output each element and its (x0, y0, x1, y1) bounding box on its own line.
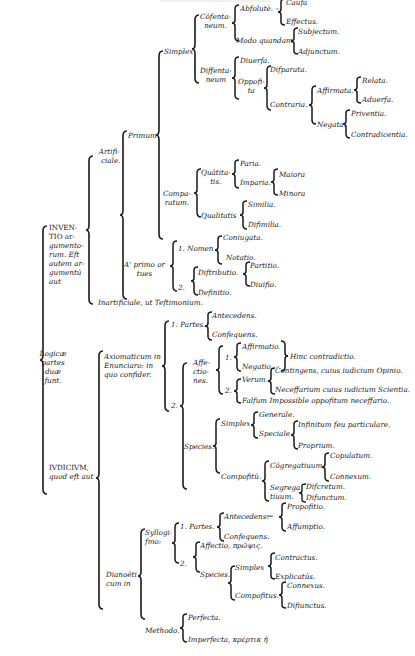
node-explicatus: Explicatūs. (275, 572, 315, 581)
brace-aprimo (170, 240, 178, 292)
node-axiomaticum: Axiomaticum inEnunciaro: inquo confider. (104, 352, 161, 379)
node-affectiones: Affe-ctio-nes. (193, 358, 210, 385)
brace-inventio (86, 155, 94, 305)
node-disiunctus: Difiunctus. (287, 601, 327, 610)
brace-quantitatis (232, 159, 240, 189)
node-contraria: Contraria. (270, 100, 307, 109)
node-disparata: Difparata. (270, 65, 307, 74)
node-proprium: Proprium. (298, 441, 335, 450)
brace-compositus (279, 581, 287, 609)
node-paria: Paria. (240, 159, 261, 168)
brace-species1 (213, 418, 221, 474)
node-two-c: 2. (225, 386, 232, 395)
node-adjunctum: Adjunctum. (298, 47, 340, 56)
node-propositio: Propofitio. (287, 502, 325, 511)
node-connexus: Connexus. (287, 581, 325, 590)
node-subjectum: Subjectum. (298, 27, 339, 36)
node-dissentaneum: Diffenta-neum (200, 66, 232, 84)
node-partes2: 1. Partes. (180, 522, 215, 531)
brace-axiomaticum (162, 320, 170, 412)
node-disiunctum: Difunctum. (306, 493, 347, 502)
node-dissimilia: Difimilia. (248, 220, 281, 229)
node-necessarium: Neceffarium cuius iudicium Scientia. (275, 385, 410, 394)
node-compositus: Compofitus. (235, 591, 279, 600)
node-connexum: Connexum. (330, 472, 371, 481)
node-comparatum: Compa-ratum. (163, 189, 191, 207)
node-antecedens1: Antecedens. (212, 311, 257, 320)
brace-simplex2 (251, 411, 259, 439)
brace-iudicium (96, 350, 104, 610)
node-inartificiale: Inartificiale, ut Teftimonium. (98, 298, 203, 307)
node-simplex2: Simplex (221, 419, 250, 428)
brace-qualitatis (240, 200, 248, 230)
node-discretum: Difcretum. (306, 482, 345, 491)
node-affirmatio: Affirmatio. (242, 342, 281, 351)
brace-nomen (215, 235, 223, 265)
node-species2: Species. (200, 570, 230, 579)
node-dianoeticum: Dianoēticum in (106, 570, 137, 588)
brace-negata (343, 109, 351, 139)
node-syllogismo: Syllogi-fmo: (145, 528, 172, 546)
brace-affectiones (216, 345, 224, 395)
node-opposita: Oppofi-ta (238, 77, 265, 95)
node-relata: Relata. (362, 76, 388, 85)
node-consequens1: Confequens. (212, 330, 257, 339)
brace-antecedens2 (279, 502, 287, 532)
node-minora: Minora (279, 189, 305, 198)
node-simplex3: Simplex (235, 563, 264, 572)
node-imperfecta: Imperfecta, κρέρτικ ῆ (188, 635, 268, 644)
brace-imparia (271, 168, 279, 196)
node-segregatiuum: Segregatiuum. (270, 483, 300, 501)
brace-simplex (192, 14, 200, 84)
node-falsum: Falfum Impossible oppofitum neceffario. (242, 396, 389, 405)
node-negata: Negata. (317, 120, 346, 129)
node-aprimo: A' primo ortues (124, 260, 165, 278)
node-aduersa: Aduerfa. (362, 95, 393, 104)
node-quantitatis: Quātita-tis. (201, 168, 231, 186)
brace-affirmata (354, 76, 362, 104)
node-partes1: 1. Partes. (171, 320, 206, 329)
node-infinitum: Infinitum feu particulare. (298, 420, 390, 429)
node-contingens: Contingens, cuius iudicium Opinio. (275, 366, 403, 375)
node-cosentaneum: Cōfenta-neum. (200, 12, 231, 30)
node-qualitatis: Qualitatis (201, 211, 236, 220)
node-similia: Similia. (248, 200, 276, 209)
brace-absolute (278, 0, 286, 26)
node-contractus: Contractus. (275, 553, 318, 562)
node-modo-quandam: Modo quandam. (236, 36, 295, 45)
node-effectus: Effectus. (286, 17, 318, 26)
node-diuersa: Diuerfa. (240, 56, 270, 65)
node-antecedens2: Antecedens. (224, 512, 269, 521)
node-two-b: 2. (171, 401, 178, 410)
brace-one-c (234, 342, 242, 372)
brace-two-c (234, 378, 242, 404)
node-two-d: 2. (180, 559, 187, 568)
running-head-cutoff (160, 0, 270, 2)
node-perfecta: Perfecta. (188, 613, 221, 622)
brace-congregatiuum (322, 452, 330, 482)
node-assumptio: Affumptio. (287, 522, 325, 531)
node-congregatiuum: Cōgregatiuum. (270, 461, 325, 470)
node-verum: Verum. (242, 375, 268, 384)
node-distributio: Diftributio. (198, 268, 238, 277)
node-absolute: Abfolutè. – (240, 4, 279, 13)
node-definitio: Definitio. (198, 288, 231, 297)
brace-two-b (180, 362, 188, 490)
node-inventio: INVEN- TIO ar- gumento- rum. Eft autem a… (49, 223, 89, 286)
node-nomen: 1. Nomen (178, 244, 213, 253)
node-partitio: Partitio. (250, 261, 279, 270)
node-artificiale: Artifi-ciale. (98, 147, 120, 165)
node-two-a: 2. (178, 283, 185, 292)
brace-root (40, 225, 48, 495)
brace-syllogismo (172, 522, 180, 564)
node-generale: Generale. (259, 410, 294, 419)
node-imparia: Imparia. (240, 178, 271, 187)
node-one-c: 1. (225, 353, 232, 362)
node-dash: — (266, 511, 273, 520)
node-causa: Caufa (286, 0, 307, 7)
node-affectio: Affectio, πρῶψις. (200, 541, 262, 550)
node-diuisio: Diuifio. (250, 280, 276, 289)
node-consequens2: Confequens. (224, 532, 269, 541)
node-species1: Species. (184, 442, 214, 451)
node-affirmata: Affirmata. (317, 86, 354, 95)
